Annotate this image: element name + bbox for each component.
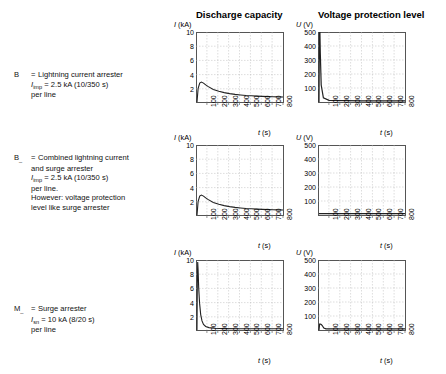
parameter-subscript: sn <box>33 319 39 325</box>
x-axis-label: t (s) <box>258 128 271 137</box>
column-headers: Discharge capacity Voltage protection le… <box>0 8 446 24</box>
x-tick: 300 <box>232 95 239 107</box>
row-description: M_=Surge arrester Isn = 10 kA (8/20 s) p… <box>14 304 164 335</box>
x-axis-label: t (s) <box>380 128 393 137</box>
y-tick: 10 <box>174 29 194 36</box>
x-tick: 400 <box>243 95 250 107</box>
y-tick: 400 <box>296 156 316 163</box>
y-tick: 300 <box>296 57 316 64</box>
row-equals: = <box>31 153 38 163</box>
x-tick: 300 <box>354 323 361 335</box>
plot-area: 500 400 300 200 100 100 200 300 400 500 … <box>318 32 406 110</box>
y-tick: 8 <box>174 271 194 278</box>
y-tick: 200 <box>296 71 316 78</box>
x-tick: 400 <box>365 208 372 220</box>
row-symbol: M_ <box>14 304 31 315</box>
y-tick: 6 <box>174 285 194 292</box>
x-tick: 700 <box>397 95 404 107</box>
y-tick: 200 <box>296 299 316 306</box>
x-tick: 100 <box>332 95 339 107</box>
x-tick: 500 <box>253 208 260 220</box>
plot-area: 10 8 6 4 2 100 200 300 400 500 600 700 8… <box>196 260 284 338</box>
x-axis-label: t (s) <box>380 356 393 365</box>
row-title: Combined lightning current <box>38 153 129 162</box>
y-tick: 8 <box>174 43 194 50</box>
row-note-1: per line <box>14 325 164 335</box>
arrester-row-surge: M_=Surge arrester Isn = 10 kA (8/20 s) p… <box>0 256 446 366</box>
y-tick: 2 <box>174 86 194 93</box>
x-tick: 100 <box>210 95 217 107</box>
row-parameter-line: Iimp = 2.5 kA (10/350 s) <box>14 173 164 184</box>
x-tick: 200 <box>343 95 350 107</box>
x-tick: 200 <box>343 208 350 220</box>
plot-area: 500 400 300 200 100 100 200 300 400 500 … <box>318 145 406 223</box>
x-tick: 600 <box>386 323 393 335</box>
y-tick: 400 <box>296 271 316 278</box>
row-note-3: level like surge arrester <box>14 203 164 213</box>
y-tick: 500 <box>296 257 316 264</box>
x-tick: 300 <box>354 95 361 107</box>
x-tick: 100 <box>332 208 339 220</box>
x-tick: 400 <box>365 323 372 335</box>
x-tick: 500 <box>253 323 260 335</box>
x-tick: 600 <box>264 208 271 220</box>
x-tick: 400 <box>243 208 250 220</box>
row-parameter-line: Iimp = 2.5 kA (10/350 s) <box>14 80 164 91</box>
y-axis-label: U (V) <box>296 133 313 142</box>
x-tick: 100 <box>210 208 217 220</box>
row-note-1: per line. <box>14 184 164 194</box>
row-description: B=Lightning current arrester Iimp = 2.5 … <box>14 70 164 100</box>
x-tick: 700 <box>275 208 282 220</box>
y-tick: 2 <box>174 199 194 206</box>
x-tick: 600 <box>386 95 393 107</box>
x-axis-label: t (s) <box>380 241 393 250</box>
x-tick: 500 <box>375 208 382 220</box>
plot-area: 500 400 300 200 100 100 200 300 400 500 … <box>318 260 406 338</box>
x-tick: 500 <box>253 95 260 107</box>
y-tick: 400 <box>296 43 316 50</box>
parameter-value: = 2.5 kA (10/350 s) <box>44 173 108 182</box>
x-tick: 600 <box>264 323 271 335</box>
row-symbol-line: M_=Surge arrester <box>14 304 164 315</box>
x-axis-label: t (s) <box>258 356 271 365</box>
x-tick: 800 <box>408 208 415 220</box>
x-tick: 100 <box>210 323 217 335</box>
plot-area: 10 8 6 4 2 100 200 300 400 500 600 700 8… <box>196 145 284 223</box>
arrester-row-combined: B_=Combined lightning current and surge … <box>0 141 446 251</box>
row-symbol-line: B_=Combined lightning current <box>14 153 164 164</box>
row-symbol-subscript: _ <box>19 157 22 163</box>
x-axis-label: t (s) <box>258 241 271 250</box>
x-tick: 600 <box>386 208 393 220</box>
row-symbol: B_ <box>14 153 31 164</box>
parameter-value: = 10 kA (8/20 s) <box>41 315 94 324</box>
row-parameter-line: Isn = 10 kA (8/20 s) <box>14 315 164 326</box>
row-symbol-subscript: _ <box>20 308 23 314</box>
y-axis-label: U (V) <box>296 248 313 257</box>
parameter-subscript: imp <box>33 84 42 90</box>
x-tick: 500 <box>375 95 382 107</box>
row-symbol-line: B=Lightning current arrester <box>14 70 164 80</box>
header-voltage-protection-level: Voltage protection level <box>318 9 424 20</box>
x-tick: 200 <box>221 208 228 220</box>
y-tick: 300 <box>296 170 316 177</box>
y-axis-label: U (V) <box>296 20 313 29</box>
y-axis-label: I (kA) <box>174 133 191 142</box>
x-tick: 800 <box>286 323 293 335</box>
row-title: Lightning current arrester <box>38 70 123 79</box>
row-title-continued: and surge arrester <box>14 164 164 174</box>
y-tick: 10 <box>174 142 194 149</box>
x-tick: 300 <box>354 208 361 220</box>
x-tick: 200 <box>343 323 350 335</box>
y-axis-label: I (kA) <box>174 248 191 257</box>
y-axis-label: I (kA) <box>174 20 191 29</box>
y-tick: 4 <box>174 185 194 192</box>
y-tick: 6 <box>174 170 194 177</box>
row-symbol: B <box>14 70 31 80</box>
plot-area: 10 8 6 4 2 100 200 300 400 500 600 700 8… <box>196 32 284 110</box>
row-note-2: However: voltage protection <box>14 193 164 203</box>
x-tick: 300 <box>232 323 239 335</box>
header-discharge-capacity: Discharge capacity <box>196 9 283 20</box>
x-tick: 700 <box>397 323 404 335</box>
x-tick: 700 <box>275 323 282 335</box>
parameter-value: = 2.5 kA (10/350 s) <box>44 80 108 89</box>
